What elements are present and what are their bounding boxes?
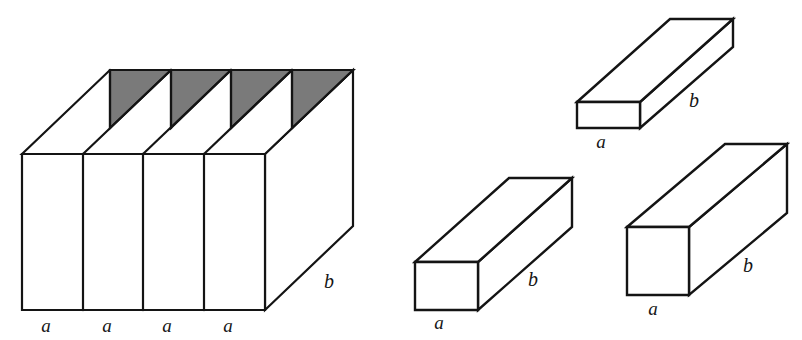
label-large-seg-1-a: a [41, 315, 51, 336]
flat-slab-prism [577, 19, 733, 128]
bar-right-front-face [627, 227, 689, 295]
flat-slab-front-face [577, 102, 640, 128]
label-large-seg-4-a: a [223, 315, 233, 336]
label-large-seg-2-a: a [102, 315, 112, 336]
prisms-diagram: a a a a b a b a b a b [0, 0, 802, 340]
label-bar-right-a: a [648, 298, 658, 319]
bar-left-front-face [415, 262, 478, 310]
label-flat-slab-b: b [689, 89, 699, 111]
label-large-seg-3-a: a [162, 315, 172, 336]
figure-container: a a a a b a b a b a b [0, 0, 802, 340]
large-segmented-prism [22, 70, 353, 310]
label-bar-right-b: b [743, 254, 753, 276]
label-flat-slab-a: a [596, 131, 606, 152]
square-bar-prism-right [627, 144, 787, 295]
label-bar-left-a: a [434, 312, 444, 333]
square-bar-prism-left [415, 178, 572, 310]
label-large-prism-b: b [324, 270, 334, 292]
label-bar-left-b: b [528, 268, 538, 290]
